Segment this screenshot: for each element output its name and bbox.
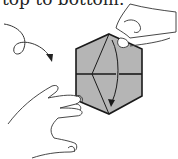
right-hand-icon: [116, 4, 176, 48]
left-hand-icon: [8, 85, 83, 158]
fold-illustration: [0, 0, 178, 159]
diagram-stage: top to bottom.: [0, 0, 178, 159]
turn-over-arrow-icon: [4, 24, 53, 62]
